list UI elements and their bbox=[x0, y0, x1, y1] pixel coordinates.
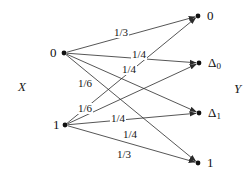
edge-weight-label-x0-yd0: 1/4 bbox=[131, 49, 147, 60]
output-node-label-1: 1 bbox=[207, 156, 214, 169]
node-dot-yd0 bbox=[197, 61, 202, 66]
edge-weight-label-x1-yd0: 1/4 bbox=[110, 113, 126, 124]
figure-canvas: X Y 0 1 0 Δ0 Δ1 1 1/31/41/41/61/61/41/41… bbox=[0, 0, 252, 182]
output-axis-label: Y bbox=[234, 82, 241, 95]
output-node-label-0: 0 bbox=[207, 9, 214, 22]
edge-weight-label-x1-yd1: 1/4 bbox=[122, 129, 138, 140]
input-node-label-1: 1 bbox=[53, 118, 60, 131]
nodes-group bbox=[62, 14, 202, 166]
node-dot-x0 bbox=[62, 51, 67, 56]
node-dot-x1 bbox=[63, 123, 68, 128]
edge-weight-label-x1-y0: 1/6 bbox=[77, 103, 93, 114]
edge-weight-label-x1-y1: 1/3 bbox=[116, 149, 132, 160]
node-dot-y0 bbox=[196, 14, 201, 19]
node-dot-yd1 bbox=[197, 111, 202, 116]
edge-weight-label-x0-y0: 1/3 bbox=[113, 27, 129, 38]
edge-weight-label-x0-y1: 1/6 bbox=[77, 78, 93, 89]
output-node-label-delta0: Δ0 bbox=[208, 56, 221, 69]
output-node-label-delta1: Δ1 bbox=[208, 106, 221, 119]
input-axis-label: X bbox=[18, 80, 26, 93]
edges-group bbox=[66, 17, 196, 162]
edge-weight-label-x0-yd1: 1/4 bbox=[121, 64, 137, 75]
input-node-label-0: 0 bbox=[50, 46, 57, 59]
node-dot-y1 bbox=[196, 161, 201, 166]
